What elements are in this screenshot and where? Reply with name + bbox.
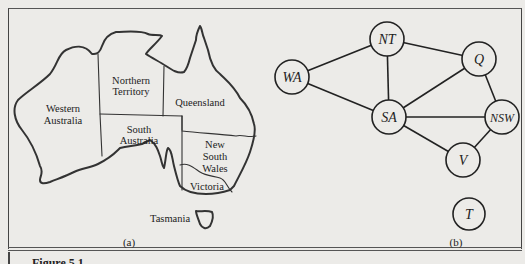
panel-b-label: (b) bbox=[450, 236, 463, 249]
node-label-nt: NT bbox=[377, 32, 396, 47]
label-nsw-3: Wales bbox=[202, 163, 227, 174]
label-victoria: Victoria bbox=[190, 181, 224, 192]
node-label-q: Q bbox=[474, 52, 484, 67]
label-queensland: Queensland bbox=[175, 97, 225, 108]
border-wa-nt bbox=[98, 54, 102, 156]
node-label-nsw: NSW bbox=[489, 111, 515, 125]
node-label-v: V bbox=[459, 153, 469, 168]
label-western-australia-2: Australia bbox=[44, 115, 83, 126]
node-label-wa: WA bbox=[282, 70, 302, 85]
border-nt-q bbox=[163, 66, 164, 116]
border-nt-sa bbox=[100, 114, 182, 116]
border-q-nsw bbox=[182, 131, 256, 137]
figure-canvas: Western Australia Northern Territory Que… bbox=[0, 0, 525, 264]
label-south-australia: South bbox=[127, 124, 152, 135]
panel-a-label: (a) bbox=[123, 236, 136, 249]
node-label-t: T bbox=[465, 207, 474, 222]
label-nsw-2: South bbox=[203, 151, 228, 162]
label-northern-territory-2: Territory bbox=[112, 86, 150, 97]
label-western-australia: Western bbox=[46, 103, 81, 114]
label-south-australia-2: Australia bbox=[120, 135, 159, 146]
tasmania-outline bbox=[196, 211, 213, 228]
label-northern-territory: Northern bbox=[112, 75, 151, 86]
constraint-graph: NT Q WA SA NSW V T (b) bbox=[275, 22, 519, 249]
node-label-sa: SA bbox=[381, 110, 397, 125]
label-nsw: New bbox=[205, 139, 225, 150]
label-tasmania: Tasmania bbox=[150, 213, 190, 224]
